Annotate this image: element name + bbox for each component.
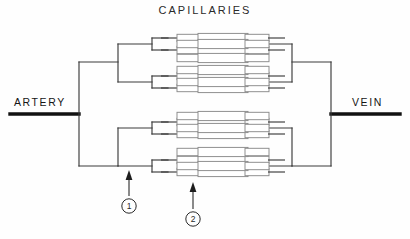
arteriole-tube xyxy=(177,54,201,61)
venule-tube xyxy=(245,124,269,131)
venule-tube xyxy=(245,40,269,47)
venule-tube xyxy=(245,148,269,155)
capillary-tube xyxy=(198,111,248,120)
capillary-bed xyxy=(161,33,285,176)
capillary-tube xyxy=(198,65,248,74)
page-title: CAPILLARIES xyxy=(0,4,410,16)
vein-label: VEIN xyxy=(352,96,383,108)
callout-2-arrow xyxy=(190,182,197,209)
venule-tube xyxy=(245,112,269,119)
arteriole-tube xyxy=(177,124,201,131)
capillary-tube xyxy=(198,161,248,170)
venule-tube xyxy=(245,162,269,169)
callout-1-arrow xyxy=(126,170,133,196)
arteriole-tube xyxy=(177,162,201,169)
venule-tube xyxy=(245,78,269,85)
diagram-canvas: CAPILLARIES ARTERY VEIN 1 2 xyxy=(0,0,410,239)
vascular-network-diagram xyxy=(0,0,410,239)
arteriole-tube xyxy=(177,78,201,85)
capillary-tube xyxy=(198,77,248,86)
capillary-tube xyxy=(198,147,248,156)
arteriole-tube xyxy=(177,148,201,155)
arteriole-tube xyxy=(177,112,201,119)
artery-label: ARTERY xyxy=(14,96,66,108)
arteriole-tube xyxy=(177,66,201,73)
capillary-tube xyxy=(198,39,248,48)
callout-2-number: 2 xyxy=(186,212,200,226)
venule-tube xyxy=(245,54,269,61)
capillary-tube xyxy=(198,53,248,62)
arteriole-tube xyxy=(177,40,201,47)
venule-tube xyxy=(245,66,269,73)
capillary-tube xyxy=(198,123,248,132)
callout-1-number: 1 xyxy=(122,199,136,213)
